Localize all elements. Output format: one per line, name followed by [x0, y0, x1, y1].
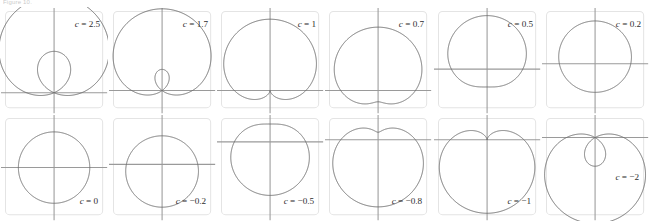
c-value-label: c= 0.2 — [616, 19, 642, 29]
limacon-panel: c= −0.8 — [324, 114, 432, 221]
limacon-panel: c= −1 — [433, 114, 541, 221]
limacon-panel: c= 1.7 — [108, 7, 216, 114]
limacon-panel: c= −2 — [541, 114, 649, 221]
c-value-label: c= 0.5 — [508, 19, 534, 29]
limacon-panel: c= 2.5 — [0, 7, 108, 114]
c-value-label: c= −2 — [615, 173, 639, 183]
c-value-label: c= 1 — [298, 19, 317, 29]
limacon-panel: c= 0.2 — [541, 7, 649, 114]
c-value-label: c= 2.5 — [75, 19, 101, 29]
c-value-label: c= 0.7 — [399, 19, 425, 29]
limacon-panel: c= 0.5 — [433, 7, 541, 114]
figure-caption: Figure 10. — [3, 0, 32, 5]
limacon-panel: c= 0.7 — [324, 7, 432, 114]
c-value-label: c= 1.7 — [183, 19, 209, 29]
limacon-figure: Figure 10. c= 2.5c= 1.7c= 1c= 0.7c= 0.5c… — [0, 0, 649, 221]
limacon-panel: c= 1 — [216, 7, 324, 114]
limacon-panel: c= 0 — [0, 114, 108, 221]
c-value-label: c= −1 — [507, 196, 531, 206]
panel-grid: c= 2.5c= 1.7c= 1c= 0.7c= 0.5c= 0.2c= 0c=… — [0, 7, 649, 221]
c-value-label: c= 0 — [80, 196, 99, 206]
limacon-panel: c= −0.2 — [108, 114, 216, 221]
limacon-panel: c= −0.5 — [216, 114, 324, 221]
